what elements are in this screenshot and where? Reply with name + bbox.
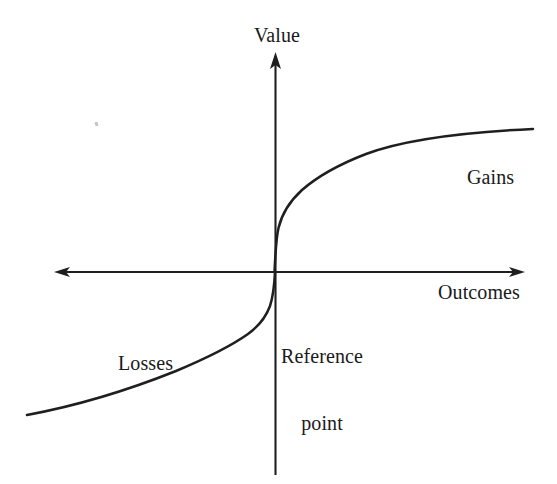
prospect-theory-figure: Value Outcomes Gains Losses Reference po… bbox=[0, 0, 557, 484]
gains-curve bbox=[275, 129, 534, 272]
reference-point-annotation: Reference point bbox=[281, 300, 363, 479]
reference-point-line-2: point bbox=[281, 412, 363, 434]
losses-curve bbox=[27, 272, 275, 415]
value-function-plot bbox=[0, 0, 557, 484]
x-axis bbox=[54, 267, 525, 277]
reference-point-line-1: Reference bbox=[281, 345, 363, 367]
losses-annotation: Losses bbox=[118, 352, 173, 374]
x-axis-label: Outcomes bbox=[438, 281, 520, 303]
gains-annotation: Gains bbox=[467, 166, 514, 188]
y-axis-label: Value bbox=[254, 24, 300, 46]
